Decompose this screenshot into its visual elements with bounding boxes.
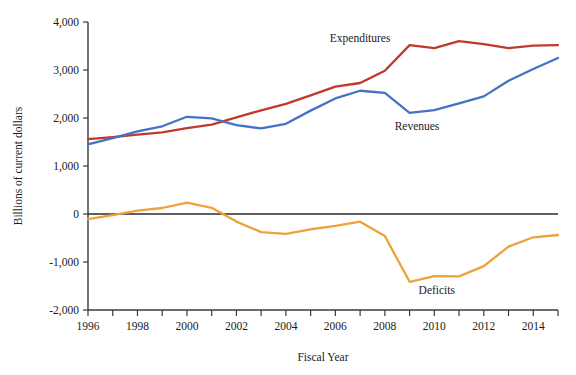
- x-tick-label: 2002: [225, 320, 248, 332]
- y-tick-label: 2,000: [53, 112, 79, 125]
- x-tick-label: 2014: [522, 320, 545, 332]
- series-label-deficits: Deficits: [419, 284, 456, 296]
- x-tick-label: 2000: [175, 320, 198, 332]
- series-label-revenues: Revenues: [395, 120, 440, 132]
- chart-background: [0, 0, 576, 375]
- chart-container: -2,000-1,00001,0002,0003,0004,000 199619…: [0, 0, 576, 375]
- y-tick-label: -2,000: [49, 304, 79, 317]
- budget-line-chart: -2,000-1,00001,0002,0003,0004,000 199619…: [0, 0, 576, 375]
- x-tick-label: 1998: [126, 320, 149, 332]
- y-tick-label: 0: [73, 208, 79, 220]
- x-tick-label: 1996: [77, 320, 100, 332]
- x-axis-title: Fiscal Year: [297, 351, 348, 363]
- y-tick-label: 4,000: [53, 16, 79, 29]
- x-tick-label: 2006: [324, 320, 347, 332]
- x-tick-label: 2010: [423, 320, 446, 332]
- y-axis-title: Billions of current dollars: [12, 106, 24, 225]
- x-tick-label: 2004: [274, 320, 297, 332]
- x-tick-label: 2008: [373, 320, 396, 332]
- y-tick-label: 1,000: [53, 160, 79, 173]
- y-tick-label: 3,000: [53, 64, 79, 77]
- series-label-expenditures: Expenditures: [330, 32, 391, 45]
- x-tick-label: 2012: [472, 320, 495, 332]
- y-tick-label: -1,000: [49, 256, 79, 269]
